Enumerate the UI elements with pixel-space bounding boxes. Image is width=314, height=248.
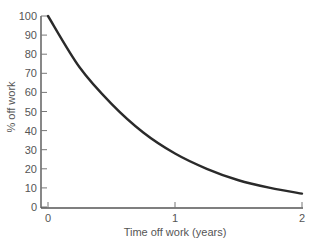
y-tick-label: 50 xyxy=(25,106,37,118)
y-tick-label: 30 xyxy=(25,144,37,156)
y-tick-label: 0 xyxy=(31,201,37,213)
decay-curve xyxy=(48,16,302,194)
y-tick-label: 100 xyxy=(19,10,37,22)
y-tick-label: 90 xyxy=(25,29,37,41)
x-axis-label: Time off work (years) xyxy=(124,226,227,238)
x-tick-label: 0 xyxy=(45,212,51,224)
y-tick-label: 20 xyxy=(25,163,37,175)
y-tick-label: 40 xyxy=(25,125,37,137)
y-axis: 0102030405060708090100 xyxy=(19,10,47,213)
chart: 0102030405060708090100 012 Time off work… xyxy=(0,0,314,248)
y-ticks: 0102030405060708090100 xyxy=(19,10,47,213)
y-tick-label: 60 xyxy=(25,86,37,98)
x-ticks: 012 xyxy=(45,202,305,224)
y-axis-label: % off work xyxy=(5,81,17,133)
x-tick-label: 1 xyxy=(172,212,178,224)
y-tick-label: 70 xyxy=(25,67,37,79)
y-tick-label: 80 xyxy=(25,48,37,60)
x-axis: 012 xyxy=(41,202,305,224)
x-tick-label: 2 xyxy=(299,212,305,224)
y-tick-label: 10 xyxy=(25,182,37,194)
